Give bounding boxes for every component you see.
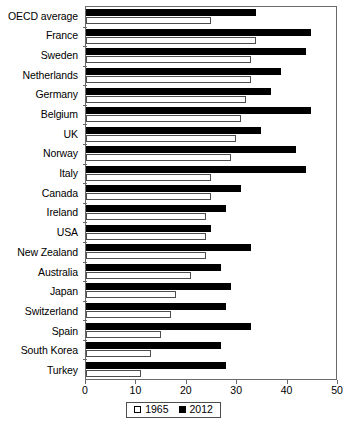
bar-2012 xyxy=(86,29,311,36)
filled-square-icon xyxy=(179,406,186,413)
x-axis-tick-labels: 01020304050 xyxy=(85,385,337,399)
legend-entry: 2012 xyxy=(179,404,213,415)
y-axis-category-labels: OECD averageFranceSwedenNetherlandsGerma… xyxy=(0,6,82,380)
bar-2012 xyxy=(86,88,271,95)
bar-group xyxy=(86,320,336,340)
y-axis-label: Italy xyxy=(0,164,82,184)
bar-1965 xyxy=(86,213,206,220)
bar-2012 xyxy=(86,68,281,75)
x-axis-tick-label: 10 xyxy=(130,385,142,396)
bar-1965 xyxy=(86,37,256,44)
y-axis-label: OECD average xyxy=(0,6,82,26)
bar-group xyxy=(86,27,336,47)
y-axis-label: Turkey xyxy=(0,360,82,380)
bar-group xyxy=(86,262,336,282)
bar-group xyxy=(86,105,336,125)
y-axis-label: Japan xyxy=(0,282,82,302)
y-axis-label: Sweden xyxy=(0,45,82,65)
plot-area xyxy=(85,6,337,380)
bar-group xyxy=(86,242,336,262)
bar-1965 xyxy=(86,56,251,63)
bar-1965 xyxy=(86,174,211,181)
bar-2012 xyxy=(86,127,261,134)
bar-2012 xyxy=(86,264,221,271)
y-axis-label: Norway xyxy=(0,144,82,164)
y-axis-label: USA xyxy=(0,223,82,243)
bar-2012 xyxy=(86,244,251,251)
bar-group xyxy=(86,222,336,242)
legend-label: 1965 xyxy=(145,404,168,415)
bar-group xyxy=(86,85,336,105)
bar-1965 xyxy=(86,96,246,103)
bar-1965 xyxy=(86,233,206,240)
bar-2012 xyxy=(86,48,306,55)
bar-group xyxy=(86,359,336,379)
bar-2012 xyxy=(86,146,296,153)
y-axis-label: Germany xyxy=(0,85,82,105)
bars-layer xyxy=(86,7,336,379)
bar-2012 xyxy=(86,185,241,192)
legend-entry: 1965 xyxy=(134,404,168,415)
bar-group xyxy=(86,183,336,203)
bar-1965 xyxy=(86,252,206,259)
y-axis-label: Switzerland xyxy=(0,301,82,321)
bar-1965 xyxy=(86,350,151,357)
bar-2012 xyxy=(86,107,311,114)
bar-1965 xyxy=(86,311,171,318)
bar-2012 xyxy=(86,166,306,173)
bar-2012 xyxy=(86,9,256,16)
bar-1965 xyxy=(86,17,211,24)
bar-group xyxy=(86,340,336,360)
y-axis-label: South Korea xyxy=(0,341,82,361)
legend-label: 2012 xyxy=(190,404,213,415)
legend: 19652012 xyxy=(0,402,347,418)
bar-2012 xyxy=(86,205,226,212)
bar-group xyxy=(86,124,336,144)
y-axis-label: France xyxy=(0,26,82,46)
bar-2012 xyxy=(86,225,211,232)
bar-group xyxy=(86,7,336,27)
bar-1965 xyxy=(86,76,251,83)
bar-1965 xyxy=(86,154,231,161)
bar-group xyxy=(86,66,336,86)
bar-1965 xyxy=(86,193,211,200)
bar-1965 xyxy=(86,370,141,377)
bar-1965 xyxy=(86,291,176,298)
bar-group xyxy=(86,281,336,301)
x-axis-tick-label: 40 xyxy=(281,385,293,396)
y-axis-label: Ireland xyxy=(0,203,82,223)
x-axis-tick-label: 50 xyxy=(331,385,343,396)
legend-box: 19652012 xyxy=(126,402,221,418)
bar-chart: OECD averageFranceSwedenNetherlandsGerma… xyxy=(0,0,347,422)
x-axis-tick-label: 20 xyxy=(180,385,192,396)
bar-group xyxy=(86,164,336,184)
bar-2012 xyxy=(86,303,226,310)
bar-group xyxy=(86,46,336,66)
bar-group xyxy=(86,203,336,223)
bar-group xyxy=(86,301,336,321)
bar-2012 xyxy=(86,323,251,330)
bar-2012 xyxy=(86,342,221,349)
bar-1965 xyxy=(86,135,236,142)
bar-1965 xyxy=(86,331,161,338)
open-square-icon xyxy=(134,406,141,413)
y-axis-label: New Zealand xyxy=(0,242,82,262)
y-axis-label: UK xyxy=(0,124,82,144)
bar-1965 xyxy=(86,272,191,279)
x-axis-tick-label: 30 xyxy=(230,385,242,396)
y-axis-label: Australia xyxy=(0,262,82,282)
y-axis-label: Spain xyxy=(0,321,82,341)
x-axis-tick-label: 0 xyxy=(82,385,88,396)
bar-2012 xyxy=(86,283,231,290)
bar-2012 xyxy=(86,362,226,369)
y-axis-label: Netherlands xyxy=(0,65,82,85)
y-axis-label: Canada xyxy=(0,183,82,203)
y-axis-label: Belgium xyxy=(0,104,82,124)
bar-1965 xyxy=(86,115,241,122)
bar-group xyxy=(86,144,336,164)
